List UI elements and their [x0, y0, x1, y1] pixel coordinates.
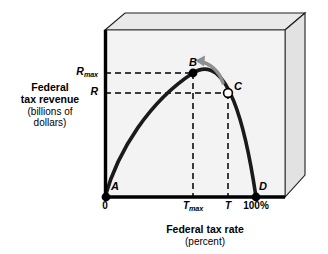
point-c-marker — [224, 89, 233, 98]
x-tick-0-base: 0 — [102, 200, 108, 211]
point-b-label: B — [189, 56, 197, 68]
y-tick-rmax-base: R — [76, 65, 84, 77]
x-tick-t-base: T — [225, 200, 231, 211]
y-axis-title-line3: (billions of — [2, 106, 98, 117]
x-axis-title-line1: Federal tax rate — [125, 224, 285, 236]
y-tick-rmax-subscript: max — [84, 70, 98, 79]
x-tick-label-tmax: Tmax — [172, 200, 214, 211]
y-axis-title-line4: dollars) — [2, 117, 98, 128]
x-tick-label-0: 0 — [95, 200, 115, 211]
x-tick-100-base: 100% — [243, 200, 269, 211]
x-axis-title: Federal tax rate (percent) — [125, 224, 285, 247]
plot-box-right-face — [285, 13, 305, 197]
point-b-marker — [189, 69, 198, 78]
y-tick-label-rmax: Rmax — [50, 66, 98, 78]
plot-box-top-face — [105, 13, 305, 30]
x-tick-label-100: 100% — [236, 200, 276, 211]
point-a-label: A — [111, 180, 119, 192]
x-tick-tmax-subscript: max — [189, 204, 203, 213]
point-d-label: D — [259, 180, 267, 192]
y-tick-r-base: R — [90, 85, 98, 97]
x-axis-title-line2: (percent) — [125, 236, 285, 247]
point-c-label: C — [234, 80, 242, 92]
y-tick-label-r: R — [50, 86, 98, 98]
